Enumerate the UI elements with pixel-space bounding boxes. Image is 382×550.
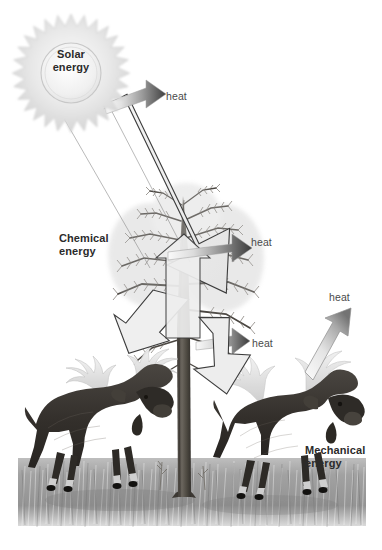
heat-label-moose: heat [329, 291, 350, 303]
solar-energy-label: Solar energy [41, 48, 101, 74]
chemical-energy-label: Chemical energy [59, 232, 109, 258]
heat-label-sun: heat [166, 90, 187, 102]
heat-label-tree-lower: heat [252, 337, 273, 349]
energy-transformation-diagram: Solar energy Chemical energy Mechanical … [0, 0, 382, 550]
heat-label-tree-upper: heat [251, 236, 272, 248]
mechanical-energy-label: Mechanical energy [305, 444, 365, 470]
